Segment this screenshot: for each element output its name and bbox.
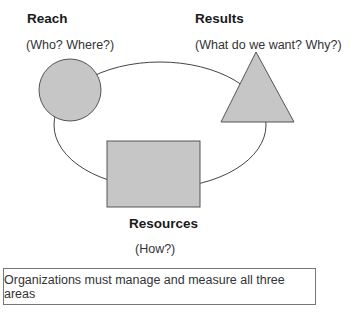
reach-title: Reach <box>27 11 68 26</box>
resources-subtitle: (How?) <box>135 242 175 256</box>
reach-subtitle: (Who? Where?) <box>26 38 114 52</box>
results-title: Results <box>195 11 244 26</box>
resources-title: Resources <box>129 216 198 231</box>
reach-circle-icon <box>39 59 101 121</box>
resources-rectangle-icon <box>107 141 200 207</box>
summary-note-box: Organizations must manage and measure al… <box>3 268 316 305</box>
summary-note-text: Organizations must manage and measure al… <box>4 273 315 301</box>
results-triangle-icon <box>221 52 294 122</box>
results-subtitle: (What do we want? Why?) <box>195 38 342 52</box>
